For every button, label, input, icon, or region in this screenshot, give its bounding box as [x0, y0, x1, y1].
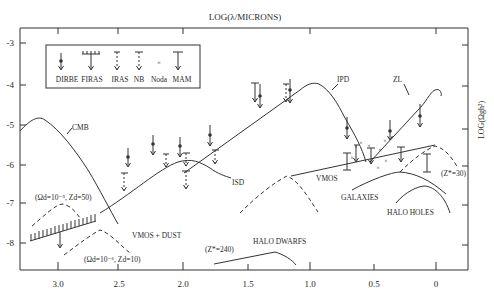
- label-zl: ZL: [393, 75, 403, 84]
- label-z240: (Z*=240): [205, 245, 234, 254]
- x-tick-labels: 3.0 2.5 2.0 1.5 1.0 0.5 0: [52, 279, 438, 289]
- curve-cmb: [20, 118, 118, 224]
- label-omega5: (Ωd=10⁻⁵, Zd=50): [35, 193, 92, 202]
- label-omega6: (Ωd=10⁻⁶, Zd=10): [84, 255, 141, 264]
- label-halo-dwarfs: HALO DWARFS: [253, 237, 306, 246]
- legend-label-mam: MAM: [173, 75, 192, 84]
- x-tick-label: 1.5: [242, 279, 254, 289]
- x-tick-label: 0: [434, 279, 439, 289]
- svg-text:×: ×: [359, 140, 362, 146]
- curve-galaxies: [352, 172, 446, 194]
- svg-text:×: ×: [383, 138, 386, 144]
- curve-ipd: [184, 83, 366, 173]
- svg-text:×: ×: [367, 143, 370, 149]
- curve-z240-dashed: [240, 176, 318, 213]
- x-tick-label: 2.5: [113, 279, 125, 289]
- y-tick-label: -3: [7, 38, 15, 48]
- y-axis-title: LOG(Ωgh²): [477, 101, 486, 139]
- legend-noda-icon: ×: [157, 59, 161, 67]
- y-tick-label: -5: [7, 120, 15, 130]
- legend-label-noda: Noda: [151, 75, 168, 84]
- mam-points: [251, 83, 431, 172]
- svg-text:×: ×: [384, 158, 387, 164]
- curve-omega6-dashed: [64, 230, 130, 255]
- y-tick-labels: -3 -4 -5 -6 -7 -8: [7, 38, 15, 248]
- curve-omega5-dashed: [32, 204, 80, 226]
- x-tick-label: 1.0: [304, 279, 316, 289]
- curve-isd: [100, 160, 231, 213]
- label-vmos: VMOS: [316, 174, 338, 183]
- y-tick-label: -6: [7, 160, 15, 170]
- y-tick-label: -4: [7, 80, 15, 90]
- cosmic-background-chart: LOG(λ/MICRONS): [0, 0, 494, 304]
- legend-label-firas: FIRAS: [81, 75, 102, 84]
- x-tick-label: 3.0: [52, 279, 64, 289]
- curve-vmos: [291, 145, 435, 176]
- x-tick-label: 2.0: [177, 279, 189, 289]
- label-halo-holes: HALO HOLES: [387, 208, 434, 217]
- x-tick-label: 0.5: [368, 279, 380, 289]
- svg-text:×: ×: [157, 59, 161, 67]
- svg-text:×: ×: [354, 144, 357, 150]
- x-axis-title: LOG(λ/MICRONS): [209, 12, 281, 22]
- iras-nb-points: [121, 84, 289, 191]
- legend: × DIRBE FIRAS IRAS NB Noda MAM: [46, 45, 200, 88]
- label-z30: (Z*=30): [441, 169, 467, 178]
- label-galaxies: GALAXIES: [341, 193, 379, 202]
- legend-label-iras: IRAS: [111, 75, 128, 84]
- annotations: CMB IPD ZL ISD VMOS VMOS + DUST GALAXIES…: [35, 75, 467, 264]
- svg-text:×: ×: [378, 147, 381, 153]
- y-tick-label: -8: [7, 238, 15, 248]
- svg-text:×: ×: [376, 165, 379, 171]
- y-tick-label: -7: [7, 198, 15, 208]
- label-isd: ISD: [232, 178, 245, 187]
- legend-label-nb: NB: [134, 75, 144, 84]
- legend-label-dirbe: DIRBE: [56, 75, 79, 84]
- svg-text:×: ×: [350, 155, 353, 161]
- label-ipd: IPD: [337, 75, 350, 84]
- label-cmb: CMB: [72, 123, 89, 132]
- curves: [20, 83, 458, 265]
- label-vmos-dust: VMOS + DUST: [132, 231, 182, 240]
